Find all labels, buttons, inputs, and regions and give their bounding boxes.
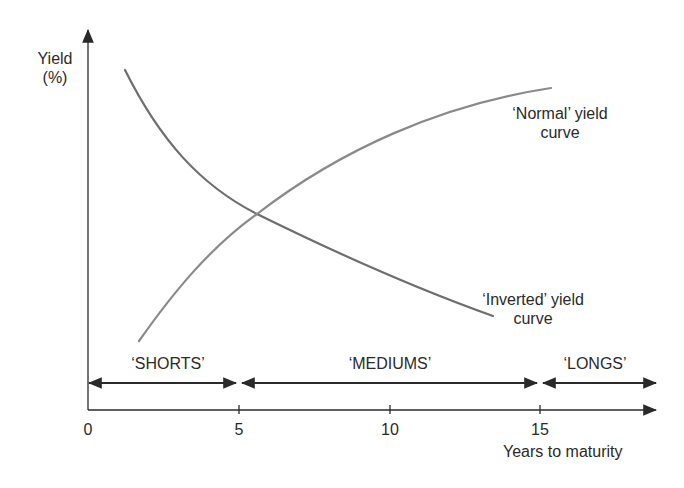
shorts-label: ‘SHORTS’ xyxy=(118,354,218,373)
normal-curve-label-line1: ‘Normal’ yield xyxy=(500,104,620,123)
inverted-curve-label: ‘Inverted’ yield curve xyxy=(463,290,603,328)
y-axis-title-line2: (%) xyxy=(30,68,80,87)
inverted-curve-label-line1: ‘Inverted’ yield xyxy=(463,290,603,309)
longs-label: ‘LONGS’ xyxy=(545,354,645,373)
mediums-label: ‘MEDIUMS’ xyxy=(330,354,450,373)
x-tick-label-0: 0 xyxy=(73,420,103,439)
y-axis-title: Yield (%) xyxy=(30,49,80,87)
x-tick-label-5: 5 xyxy=(224,420,254,439)
yield-curve-diagram: Yield (%) ‘Normal’ yield curve ‘Inverted… xyxy=(0,0,684,488)
inverted-yield-curve xyxy=(125,70,493,316)
x-tick-label-10: 10 xyxy=(372,420,408,439)
diagram-canvas xyxy=(0,0,684,488)
x-tick-label-15: 15 xyxy=(522,420,558,439)
normal-curve-label-line2: curve xyxy=(500,123,620,142)
x-axis-title: Years to maturity xyxy=(503,442,622,461)
y-axis-title-line1: Yield xyxy=(30,49,80,68)
normal-curve-label: ‘Normal’ yield curve xyxy=(500,104,620,142)
inverted-curve-label-line2: curve xyxy=(463,309,603,328)
